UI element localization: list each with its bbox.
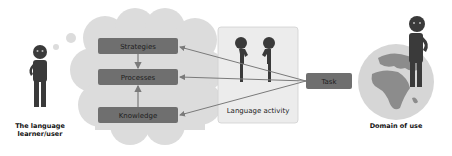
- strategies-label: Strategies: [120, 43, 156, 51]
- task-label: Task: [320, 78, 337, 86]
- knowledge-box: Knowledge: [98, 107, 178, 123]
- strategies-box: Strategies: [98, 38, 178, 54]
- processes-label: Processes: [121, 74, 156, 82]
- task-box: Task: [306, 73, 352, 89]
- thought-bubbles: [53, 33, 76, 50]
- domain-of-use-label: Domain of use: [370, 122, 423, 130]
- language-activity-label: Language activity: [227, 107, 290, 115]
- learner-label-line2: learner/user: [18, 130, 64, 138]
- knowledge-label: Knowledge: [119, 112, 157, 120]
- learner-label-line1: The language: [15, 122, 65, 130]
- language-use-diagram: The language learner/user Strategies Pro…: [0, 0, 452, 156]
- learner-person-icon: [29, 45, 47, 107]
- processes-box: Processes: [98, 69, 178, 85]
